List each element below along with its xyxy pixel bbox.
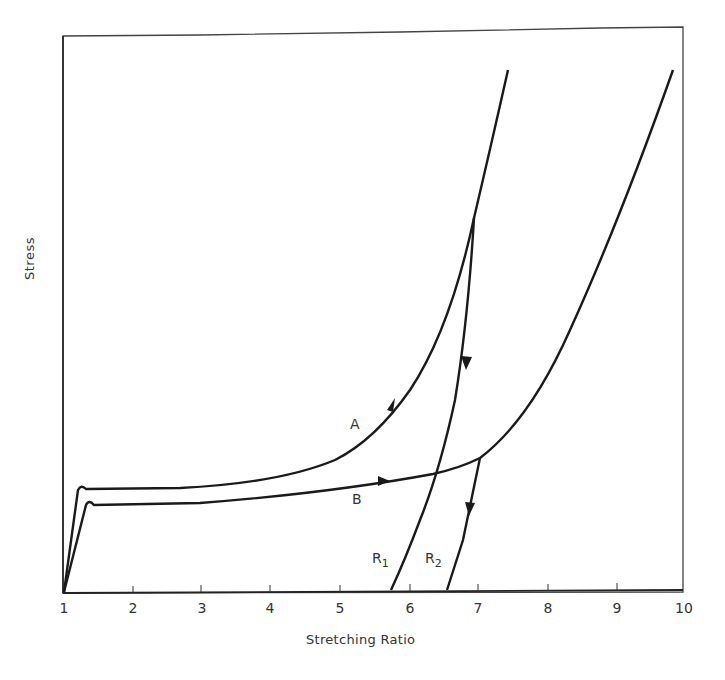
- x-tick-10: 10: [675, 600, 693, 616]
- r1-main: R: [372, 550, 382, 566]
- chart-canvas: [0, 0, 725, 680]
- x-tick-4: 4: [266, 600, 275, 616]
- x-tick-8: 8: [544, 600, 553, 616]
- curve-a-label: A: [350, 416, 360, 432]
- x-axis-label: Stretching Ratio: [306, 632, 415, 647]
- x-tick-9: 9: [613, 600, 622, 616]
- x-tick-1: 1: [60, 600, 69, 616]
- curve-b-label: B: [352, 491, 362, 507]
- arrow-r2-icon: [465, 502, 475, 516]
- y-axis-label: Stress: [22, 237, 37, 280]
- curve-r1: [391, 218, 474, 590]
- arrow-b-icon: [378, 476, 390, 486]
- x-tick-3: 3: [198, 600, 207, 616]
- x-tick-2: 2: [129, 600, 138, 616]
- curve-r2: [447, 458, 480, 590]
- x-tick-5: 5: [336, 600, 345, 616]
- r1-sub: 1: [382, 557, 389, 570]
- curve-r1-label: R1: [372, 550, 389, 570]
- curve-a: [64, 70, 508, 592]
- r2-main: R: [425, 550, 435, 566]
- r2-sub: 2: [435, 557, 442, 570]
- x-tick-6: 6: [406, 600, 415, 616]
- curve-r2-label: R2: [425, 550, 442, 570]
- arrow-r1-icon: [461, 356, 472, 370]
- curve-b: [64, 70, 673, 592]
- x-tick-7: 7: [474, 600, 483, 616]
- plot-frame: [63, 27, 683, 593]
